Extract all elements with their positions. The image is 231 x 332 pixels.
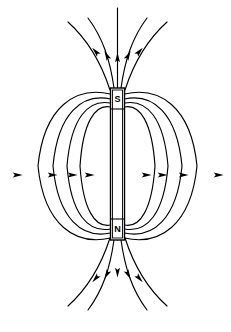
- bar-magnet: S N: [111, 88, 125, 240]
- arrow-bottom-inner-right-icon: [124, 269, 133, 280]
- loop-left-4: [80, 107, 111, 226]
- arrow-bottom-outer-left-icon: [90, 273, 100, 284]
- open-line-inner-left-bottom: [88, 240, 114, 310]
- arrow-left-2-icon: [48, 173, 58, 178]
- arrowhead-glyph: [179, 173, 189, 178]
- arrowhead-glyph: [142, 173, 152, 178]
- south-pole-label: S: [114, 94, 120, 104]
- arrow-right-4-icon: [214, 173, 224, 178]
- arrowhead-glyph: [115, 268, 120, 278]
- arrowhead-glyph: [124, 269, 133, 280]
- arrow-bottom-outer-right-icon: [134, 273, 144, 284]
- arrow-left-3-icon: [68, 173, 78, 178]
- loop-right-4: [125, 107, 156, 226]
- open-line-outer-left-bottom: [68, 238, 110, 306]
- arrowhead-glyph: [90, 273, 100, 284]
- closed-loops-right-group: [125, 92, 198, 239]
- north-pole-label: N: [114, 224, 121, 234]
- open-line-inner-right-top: [121, 18, 147, 88]
- arrowhead-glyph: [48, 173, 58, 178]
- open-line-outer-right-bottom: [125, 238, 167, 306]
- field-line-canvas: S N: [0, 0, 231, 332]
- arrowhead-glyph: [124, 50, 133, 61]
- loop-right-1: [125, 92, 198, 239]
- loop-right-2: [125, 98, 183, 234]
- open-line-outer-right-top: [125, 22, 167, 90]
- arrowhead-glyph: [134, 273, 144, 284]
- arrow-right-2-icon: [158, 173, 168, 178]
- arrow-top-inner-left-icon: [102, 50, 111, 61]
- closed-loops-left-group: [38, 92, 111, 239]
- open-line-outer-left-top: [68, 22, 110, 90]
- arrow-bottom-inner-left-icon: [102, 269, 111, 280]
- open-line-inner-left-top: [88, 18, 114, 88]
- magnetic-field-diagram: S N: [0, 0, 231, 332]
- arrowhead-glyph: [85, 173, 95, 178]
- arrowhead-glyph: [158, 173, 168, 178]
- arrow-bottom-center-icon: [115, 268, 120, 278]
- arrow-left-4-icon: [85, 173, 95, 178]
- loop-left-2: [53, 98, 111, 234]
- arrowhead-glyph: [214, 173, 224, 178]
- arrow-right-3-icon: [179, 173, 189, 178]
- arrow-top-inner-right-icon: [124, 50, 133, 61]
- arrowhead-glyph: [102, 50, 111, 61]
- loop-left-1: [38, 92, 111, 239]
- arrow-right-1-icon: [142, 173, 152, 178]
- open-line-inner-right-bottom: [121, 240, 147, 310]
- arrow-left-1-icon: [13, 173, 23, 178]
- arrowhead-glyph: [102, 269, 111, 280]
- arrowhead-glyph: [13, 173, 23, 178]
- arrowhead-glyph: [68, 173, 78, 178]
